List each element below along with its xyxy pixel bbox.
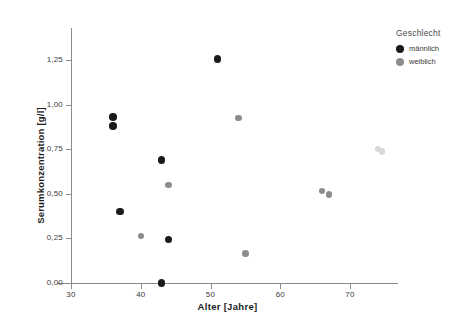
- y-tick-mark: [66, 105, 71, 106]
- y-tick-mark: [66, 149, 71, 150]
- legend-entries: männlichweiblich: [396, 43, 473, 67]
- x-tick-label: 50: [196, 290, 226, 299]
- x-tick-mark: [141, 284, 142, 289]
- legend-item-label: männlich: [409, 44, 439, 53]
- legend-item[interactable]: weiblich: [396, 56, 473, 67]
- data-point-maennlich: [158, 279, 166, 287]
- x-tick-mark: [71, 284, 72, 289]
- legend-title: Geschlecht: [396, 28, 473, 38]
- y-tick-mark: [66, 238, 71, 239]
- y-tick-mark: [66, 60, 71, 61]
- y-tick-mark: [66, 194, 71, 195]
- legend: Geschlecht männlichweiblich: [396, 28, 473, 69]
- y-axis-title: Serumkonzentration [g/l]: [35, 66, 46, 266]
- data-point-maennlich: [109, 113, 117, 121]
- legend-item-label: weiblich: [409, 57, 436, 66]
- x-tick-label: 40: [126, 290, 156, 299]
- data-point-weiblich: [138, 233, 145, 240]
- data-point-weiblich: [379, 148, 386, 155]
- x-tick-label: 60: [265, 290, 295, 299]
- x-tick-mark: [211, 284, 212, 289]
- data-point-maennlich: [214, 55, 222, 63]
- data-point-weiblich: [235, 115, 242, 122]
- data-point-maennlich: [165, 236, 173, 244]
- x-tick-mark: [350, 284, 351, 289]
- x-tick-mark: [280, 284, 281, 289]
- x-tick-label: 30: [56, 290, 86, 299]
- legend-marker-icon: [396, 45, 404, 53]
- data-point-weiblich: [326, 191, 333, 198]
- scatter-plot-figure: 0,000,250,500,751,001,25 3040506070 Seru…: [0, 0, 473, 330]
- y-axis-line: [71, 28, 72, 284]
- data-point-weiblich: [165, 182, 172, 189]
- data-point-maennlich: [158, 156, 166, 164]
- x-tick-label: 70: [335, 290, 365, 299]
- x-axis-line: [57, 283, 398, 284]
- y-tick-label: 1,25: [31, 55, 63, 64]
- legend-marker-icon: [396, 58, 404, 66]
- data-point-weiblich: [319, 188, 326, 195]
- data-point-maennlich: [109, 122, 117, 130]
- y-tick-label: 0,00: [31, 278, 63, 287]
- data-point-weiblich: [242, 250, 249, 257]
- x-axis-title: Alter [Jahre]: [57, 301, 398, 312]
- data-point-maennlich: [116, 208, 124, 216]
- legend-item[interactable]: männlich: [396, 43, 473, 54]
